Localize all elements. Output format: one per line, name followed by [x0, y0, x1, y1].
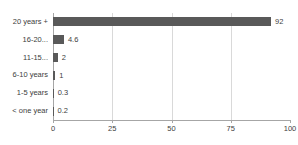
x-tick-mark [172, 120, 173, 123]
category-label: 1-5 years [0, 90, 53, 98]
bar-row: 2 [53, 49, 290, 67]
bar-value-label: 1 [59, 72, 63, 80]
category-axis: 20 years +16-20...11-15...6-10 years1-5 … [0, 13, 53, 120]
category-label: 6-10 years [0, 72, 53, 80]
bar [53, 17, 271, 26]
x-tick-label: 50 [167, 125, 175, 133]
x-tick-mark [231, 120, 232, 123]
bar-row: 92 [53, 13, 290, 31]
x-tick-label: 100 [284, 125, 297, 133]
bar-row: 1 [53, 67, 290, 85]
bar-chart: 20 years +16-20...11-15...6-10 years1-5 … [0, 0, 298, 145]
bar-row: 4.6 [53, 31, 290, 49]
category-label: 11-15... [0, 54, 53, 62]
bar-value-label: 92 [275, 18, 283, 26]
x-tick-label: 25 [108, 125, 116, 133]
plot-area: 924.6210.30.2 [53, 13, 290, 120]
bar-value-label: 0.2 [57, 107, 67, 115]
x-tick-mark [290, 120, 291, 123]
x-tick-label: 0 [51, 125, 55, 133]
bar [53, 71, 55, 80]
bar-value-label: 4.6 [68, 36, 78, 44]
x-tick-label: 75 [227, 125, 235, 133]
x-tick-mark [112, 120, 113, 123]
bar [53, 89, 54, 98]
x-axis: 0255075100 [53, 122, 290, 136]
category-label: < one year [0, 107, 53, 115]
x-tick-mark [53, 120, 54, 123]
category-label: 16-20... [0, 36, 53, 44]
category-label: 20 years + [0, 18, 53, 26]
bar [53, 35, 64, 44]
bar-row: 0.3 [53, 84, 290, 102]
bar-row: 0.2 [53, 102, 290, 120]
bar-value-label: 2 [62, 54, 66, 62]
bar-value-label: 0.3 [58, 89, 68, 97]
bar [53, 53, 58, 62]
